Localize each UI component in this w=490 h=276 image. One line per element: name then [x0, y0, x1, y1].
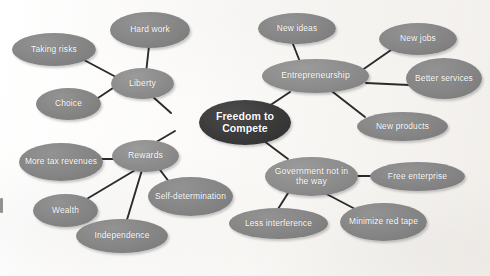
- node-label: Independence: [89, 231, 154, 240]
- node-leaf-better-services[interactable]: Better services: [406, 58, 482, 99]
- node-label: Minimize red tape: [344, 217, 423, 226]
- node-label: Choice: [50, 99, 87, 108]
- node-leaf-hard-work[interactable]: Hard work: [110, 12, 190, 48]
- edge-entrepreneurship-to-better_services: [366, 83, 409, 85]
- node-label: Hard work: [125, 25, 175, 34]
- node-leaf-minimize-red-tape[interactable]: Minimize red tape: [340, 203, 427, 241]
- node-leaf-more-tax-revenues[interactable]: More tax revenues: [19, 143, 103, 181]
- node-label: Self-determination: [150, 192, 231, 201]
- node-label: Taking risks: [26, 45, 82, 54]
- node-leaf-new-jobs[interactable]: New jobs: [379, 23, 457, 55]
- node-label: New ideas: [272, 24, 323, 33]
- node-hub-entrepreneurship[interactable]: Entrepreneurship: [262, 59, 369, 93]
- node-center-freedom-to-compete[interactable]: Freedom to Compete: [199, 100, 291, 145]
- node-hub-government-not-in-the-way[interactable]: Government not in the way: [265, 157, 358, 196]
- node-label: Liberty: [124, 79, 161, 88]
- node-leaf-new-ideas[interactable]: New ideas: [258, 13, 336, 44]
- node-leaf-choice[interactable]: Choice: [36, 88, 101, 120]
- node-label: Rewards: [123, 151, 168, 160]
- node-leaf-independence[interactable]: Independence: [76, 219, 168, 253]
- node-hub-rewards[interactable]: Rewards: [112, 140, 179, 172]
- node-label: New products: [371, 122, 434, 131]
- node-hub-liberty[interactable]: Liberty: [111, 68, 174, 99]
- edge-entrepreneurship-to-new_products: [329, 89, 365, 117]
- node-leaf-new-products[interactable]: New products: [357, 112, 448, 141]
- node-label: Wealth: [47, 206, 84, 215]
- node-label: More tax revenues: [20, 157, 102, 166]
- edge-rewards-to-independence: [126, 170, 142, 223]
- node-leaf-free-enterprise[interactable]: Free enterprise: [370, 162, 465, 191]
- node-label: Better services: [410, 74, 478, 83]
- node-label: Free enterprise: [383, 172, 452, 181]
- node-leaf-less-interference[interactable]: Less interference: [229, 208, 328, 239]
- node-label: Government not in the way: [265, 167, 358, 186]
- node-leaf-wealth[interactable]: Wealth: [33, 194, 98, 227]
- node-leaf-taking-risks[interactable]: Taking risks: [12, 33, 96, 66]
- mind-map-canvas: Freedom to Compete Liberty Entrepreneurs…: [0, 0, 490, 276]
- node-leaf-self-determination[interactable]: Self-determination: [148, 177, 233, 216]
- edge-liberty-to-taking_risks: [84, 60, 116, 77]
- node-label: New jobs: [395, 34, 441, 43]
- node-label: Entrepreneurship: [276, 71, 355, 80]
- node-label: Freedom to Compete: [199, 111, 291, 134]
- node-label: Less interference: [240, 219, 317, 228]
